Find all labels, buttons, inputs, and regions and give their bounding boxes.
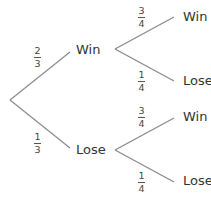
numerator: 1 (138, 70, 144, 80)
numerator: 1 (138, 171, 144, 181)
node-win: Win (76, 43, 100, 57)
prob-root-win: 2 3 (34, 46, 41, 69)
prob-root-lose: 1 3 (34, 132, 41, 155)
tree-edges (0, 0, 211, 210)
node-lose-win: Win (183, 110, 207, 124)
probability-tree-diagram: 2 3 1 3 Win Lose 3 4 1 4 3 4 1 4 Win Los… (0, 0, 211, 210)
prob-win-lose: 1 4 (138, 70, 145, 93)
denominator: 4 (138, 19, 144, 29)
numerator: 3 (138, 106, 144, 116)
denominator: 3 (34, 59, 40, 69)
prob-win-win: 3 4 (138, 6, 145, 29)
numerator: 1 (34, 132, 40, 142)
denominator: 4 (138, 184, 144, 194)
numerator: 2 (34, 46, 40, 56)
node-win-win: Win (183, 10, 207, 24)
node-win-lose: Lose (183, 74, 211, 88)
numerator: 3 (138, 6, 144, 16)
prob-lose-lose: 1 4 (138, 171, 145, 194)
denominator: 4 (138, 83, 144, 93)
prob-lose-win: 3 4 (138, 106, 145, 129)
denominator: 3 (34, 145, 40, 155)
node-lose-lose: Lose (183, 174, 211, 188)
denominator: 4 (138, 119, 144, 129)
node-lose: Lose (76, 143, 106, 157)
